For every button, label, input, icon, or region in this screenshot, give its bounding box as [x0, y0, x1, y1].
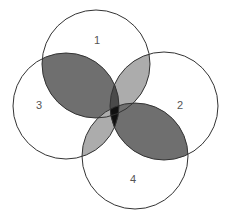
set-label-2: 2: [177, 99, 183, 111]
set-label-1: 1: [94, 34, 100, 46]
set-label-3: 3: [36, 99, 42, 111]
set-label-4: 4: [130, 173, 136, 185]
venn-diagram: 1 2 3 4: [0, 0, 226, 223]
